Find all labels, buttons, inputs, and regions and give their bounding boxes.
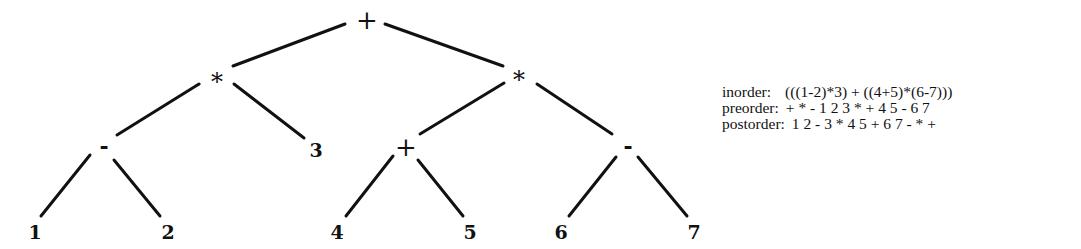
tree-node-leaf-6: 6: [554, 223, 567, 242]
tree-edge-right-sub-to-leaf-7: [638, 157, 687, 216]
tree-node-leaf-5: 5: [463, 223, 476, 242]
tree-edge-right-mul-to-right-sub: [537, 84, 612, 134]
tree-edge-left-mul-to-left-sub: [117, 84, 199, 135]
tree-edge-left-sub-to-leaf-2: [114, 160, 160, 216]
tree-node-leaf-2: 2: [161, 223, 174, 242]
tree-node-right-mul: *: [513, 68, 525, 92]
inorder-row: inorder:(((1-2)*3) + ((4+5)*(6-7))): [722, 84, 952, 100]
tree-edge-inner-add-to-leaf-5: [418, 160, 463, 216]
tree-node-leaf-3: 3: [309, 141, 322, 160]
preorder-label: preorder:: [722, 100, 779, 116]
tree-node-root: +: [356, 7, 378, 33]
tree-edge-left-mul-to-leaf-3: [234, 84, 304, 138]
postorder-label: postorder:: [722, 116, 785, 132]
tree-node-left-mul: *: [211, 70, 223, 94]
inorder-value: (((1-2)*3) + ((4+5)*(6-7))): [785, 84, 952, 100]
traversal-listing: inorder:(((1-2)*3) + ((4+5)*(6-7))) preo…: [722, 84, 952, 132]
tree-edge-root-to-left-mul: [233, 24, 345, 66]
preorder-value: + * - 1 2 3 * + 4 5 - 6 7: [786, 100, 930, 116]
postorder-row: postorder:1 2 - 3 * 4 5 + 6 7 - * +: [722, 116, 952, 132]
tree-node-leaf-4: 4: [330, 223, 343, 242]
tree-node-leaf-7: 7: [687, 223, 700, 242]
inorder-label: inorder:: [722, 84, 771, 100]
tree-edge-left-sub-to-leaf-1: [41, 155, 90, 216]
tree-edge-right-sub-to-leaf-6: [569, 157, 616, 216]
tree-edge-root-to-right-mul: [385, 24, 503, 66]
tree-edge-inner-add-to-leaf-4: [346, 156, 393, 216]
tree-node-leaf-1: 1: [28, 223, 41, 242]
tree-node-left-sub: -: [99, 135, 108, 157]
postorder-value: 1 2 - 3 * 4 5 + 6 7 - * +: [792, 116, 936, 132]
tree-node-right-sub: -: [623, 135, 632, 157]
tree-node-inner-add: +: [395, 134, 417, 160]
preorder-row: preorder:+ * - 1 2 3 * + 4 5 - 6 7: [722, 100, 952, 116]
tree-edge-right-mul-to-inner-add: [420, 83, 504, 134]
